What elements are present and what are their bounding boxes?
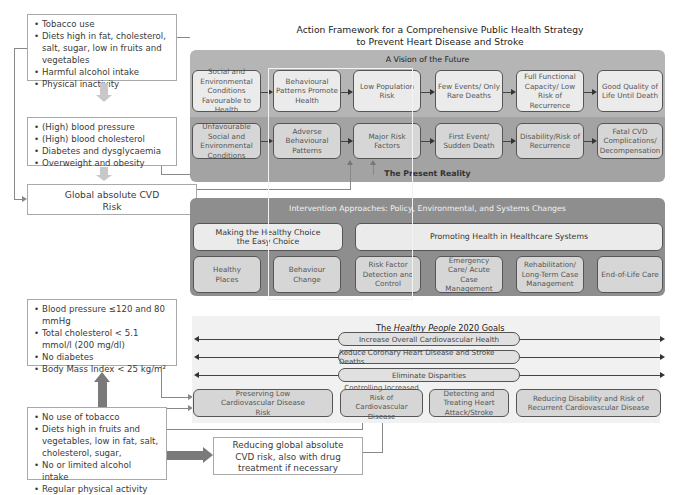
target-item: Blood pressure ≤120 and 80 mmHg bbox=[34, 303, 170, 327]
reality-node: First Event/ Sudden Death bbox=[435, 123, 503, 159]
interventions-header: Intervention Approaches: Policy, Environ… bbox=[190, 204, 665, 213]
reality-node: Unfavourable Social and Environmental Co… bbox=[192, 123, 261, 159]
arrow-head-icon bbox=[430, 138, 435, 144]
highlight-frame bbox=[268, 68, 413, 300]
up-arrow-head-icon bbox=[94, 372, 110, 382]
intervention-item: Healthy Places bbox=[193, 256, 261, 293]
target-item: No diabetes bbox=[34, 351, 170, 363]
goal-box: Preserving Low Cardiovascular Disease Ri… bbox=[193, 389, 333, 417]
right-arrow-icon bbox=[167, 451, 205, 460]
reality-node: Fatal CVD Complications/ Decompensation bbox=[597, 123, 663, 159]
vision-node: Few Events/ Only Rare Deaths bbox=[435, 70, 503, 112]
title-line-1: Action Framework for a Comprehensive Pub… bbox=[290, 24, 590, 36]
reality-footer: The Present Reality bbox=[190, 169, 665, 178]
global-risk-box: Global absolute CVD Risk bbox=[27, 184, 197, 215]
risk-behaviour-item: Diets high in fat, cholesterol, salt, su… bbox=[34, 30, 170, 66]
vision-panel: A Vision of the Future bbox=[190, 50, 665, 117]
connector-line bbox=[363, 452, 383, 453]
flow-arrow bbox=[261, 141, 268, 142]
risk-factor-item: Diabetes and dysglycaemia bbox=[34, 145, 170, 157]
goal-box: Reducing Disability and Risk of Recurren… bbox=[516, 389, 661, 417]
risk-behaviour-item: Tobacco use bbox=[34, 18, 170, 30]
goal-box: Controlling Increased Risk of Cardiovasc… bbox=[340, 389, 423, 417]
flow-arrow bbox=[584, 92, 592, 93]
intervention-item: End-of-Life Care bbox=[597, 256, 663, 293]
vision-header: A Vision of the Future bbox=[190, 55, 665, 64]
risk-factors-box: (High) blood pressure (High) blood chole… bbox=[27, 117, 177, 166]
goal-bar: Eliminate Disparities bbox=[338, 368, 520, 382]
vision-node: Good Quality of Life Until Death bbox=[597, 70, 663, 112]
down-arrow-head-icon bbox=[96, 175, 112, 181]
arrow-head-icon bbox=[22, 196, 27, 202]
flow-arrow bbox=[421, 92, 430, 93]
risk-behaviours-box: Tobacco use Diets high in fat, cholester… bbox=[27, 14, 177, 81]
connector-line bbox=[177, 37, 190, 38]
goal-bar: Increase Overall Cardiovascular Health bbox=[338, 332, 520, 346]
connector-line bbox=[167, 408, 189, 409]
arrow-left-icon bbox=[194, 372, 199, 378]
targets-box: Blood pressure ≤120 and 80 mmHg Total ch… bbox=[27, 299, 177, 366]
arrow-head-icon bbox=[592, 138, 597, 144]
connector-line bbox=[14, 48, 15, 200]
right-arrow-head-icon bbox=[203, 447, 213, 463]
down-arrow-head-icon bbox=[96, 95, 112, 102]
diagram-title: Action Framework for a Comprehensive Pub… bbox=[290, 24, 590, 48]
risk-behaviour-item: Harmful alcohol intake bbox=[34, 66, 170, 78]
connector-line bbox=[161, 397, 189, 398]
target-item: Total cholesterol < 5.1 mmol/l (200 mg/d… bbox=[34, 327, 170, 351]
goal-box: Detecting and Treating Heart Attack/Stro… bbox=[429, 389, 509, 417]
healthy-behaviours-box: No use of tobacco Diets high in fruits a… bbox=[27, 407, 167, 480]
arrow-head-icon bbox=[511, 89, 516, 95]
reality-panel: The Present Reality bbox=[190, 117, 665, 182]
intervention-item: Emergency Care/ Acute Case Management bbox=[435, 256, 503, 293]
reducing-risk-box: Reducing global absolute CVD risk, also … bbox=[213, 437, 363, 475]
arrow-left-icon bbox=[194, 354, 199, 360]
vision-node: Full Functional Capacity/ Low Risk of Re… bbox=[516, 70, 584, 112]
risk-factor-item: (High) blood pressure bbox=[34, 121, 170, 133]
intervention-item: Rehabilitation/ Long-Term Case Managemen… bbox=[516, 256, 584, 293]
risk-factor-item: (High) blood cholesterol bbox=[34, 133, 170, 145]
arrow-left-icon bbox=[194, 336, 199, 342]
flow-arrow bbox=[261, 92, 268, 93]
reducing-risk-label: Reducing global absolute CVD risk, also … bbox=[233, 440, 344, 473]
arrow-right-icon bbox=[660, 372, 665, 378]
reality-node: Disability/Risk of Recurrence bbox=[516, 123, 584, 159]
healthy-behaviour-item: Diets high in fruits and vegetables, low… bbox=[34, 423, 160, 459]
title-line-2: to Prevent Heart Disease and Stroke bbox=[290, 36, 590, 48]
arrow-right-icon bbox=[660, 336, 665, 342]
flow-arrow bbox=[421, 141, 430, 142]
connector-line bbox=[167, 429, 363, 430]
healthy-behaviour-item: No use of tobacco bbox=[34, 411, 160, 423]
arrow-head-icon bbox=[511, 138, 516, 144]
goal-bar: Reduce Coronary Heart Disease and Stroke… bbox=[338, 350, 520, 364]
healthy-behaviour-item: Regular physical activity bbox=[34, 483, 160, 495]
arrow-right-icon bbox=[660, 354, 665, 360]
healthy-behaviour-item: No or limited alcohol intake bbox=[34, 459, 160, 483]
connector-line bbox=[14, 48, 27, 49]
connector-line bbox=[161, 366, 162, 398]
global-risk-label: Global absolute CVD Risk bbox=[57, 189, 167, 213]
flow-arrow bbox=[584, 141, 592, 142]
vision-node: Social and Environmental Conditions Favo… bbox=[192, 70, 261, 112]
flow-arrow bbox=[503, 141, 511, 142]
flow-arrow bbox=[503, 92, 511, 93]
arrow-head-icon bbox=[430, 89, 435, 95]
arrow-head-icon bbox=[592, 89, 597, 95]
connector-line bbox=[382, 421, 383, 453]
